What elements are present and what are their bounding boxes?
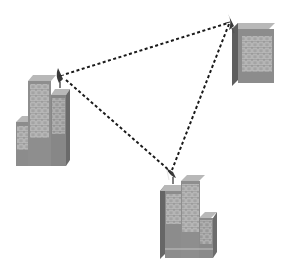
building-left-right-block-windows <box>52 98 65 134</box>
building-bottom-left-windows <box>166 194 182 224</box>
building-left-tower-windows <box>30 84 49 138</box>
building-top-right-roof <box>232 23 275 29</box>
building-bottom-main-windows <box>182 184 199 232</box>
building-left-tower-top <box>28 75 56 81</box>
building-top-right-side <box>232 23 238 86</box>
building-left-right-block-side <box>66 89 70 166</box>
building-top-right-windows <box>242 36 272 72</box>
building-bottom-left-side <box>160 185 165 259</box>
building-bottom <box>160 168 217 259</box>
building-left-annex-windows <box>17 126 29 150</box>
building-bottom-main-top <box>181 175 205 181</box>
building-top-right <box>226 14 275 86</box>
satellite-dish-icon <box>57 68 64 88</box>
wireless-network-diagram <box>0 0 295 271</box>
wireless-links <box>66 23 229 171</box>
link-left-to-top-right <box>66 23 228 74</box>
link-left-to-bottom <box>66 80 170 171</box>
building-bottom-right-side <box>213 212 217 258</box>
building-bottom-right-windows <box>200 220 212 244</box>
link-top-right-to-bottom <box>172 24 229 170</box>
building-left <box>16 68 70 166</box>
satellite-dish-icon <box>166 168 176 184</box>
